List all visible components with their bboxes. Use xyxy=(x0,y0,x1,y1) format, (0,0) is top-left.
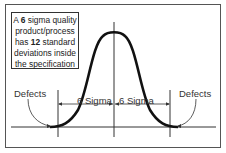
callout-line-2: product/process xyxy=(12,26,78,37)
callout-line-4: deviations inside xyxy=(12,48,78,59)
six-sigma-diagram: A 6 sigma quality product/process has 12… xyxy=(0,0,226,153)
sigma-right-label: 6 Sigma xyxy=(119,96,154,106)
defects-right-label: Defects xyxy=(179,89,211,99)
callout-line-3: has 12 standard xyxy=(12,37,78,48)
defects-left-label: Defects xyxy=(14,89,46,99)
callout-line-5: the specification xyxy=(12,59,78,70)
callout-line-1: A 6 sigma quality xyxy=(12,15,78,26)
sigma-left-label: 6 Sigma xyxy=(77,96,112,106)
callout-box: A 6 sigma quality product/process has 12… xyxy=(11,12,79,69)
